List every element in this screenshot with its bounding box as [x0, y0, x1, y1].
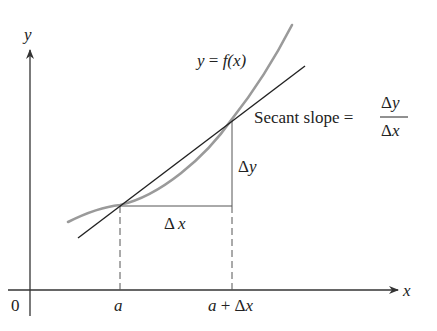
secant-line — [78, 66, 305, 238]
fraction-numerator: Δy — [381, 93, 400, 112]
secant-slope-diagram: y x 0 a a + Δx y = f(x) Δx Δy Secant slo… — [0, 0, 437, 331]
fraction-denominator: Δx — [381, 121, 400, 140]
tick-label-a-plus-dx: a + Δx — [208, 296, 254, 315]
tick-label-a: a — [114, 296, 123, 315]
delta-y-label: Δy — [238, 157, 257, 176]
y-axis-label: y — [22, 25, 32, 44]
origin-label: 0 — [11, 296, 20, 315]
curve-label: y = f(x) — [195, 51, 247, 70]
secant-slope-text: Secant slope = — [254, 108, 353, 127]
x-axis-label: x — [402, 281, 411, 300]
delta-x-label: Δx — [164, 214, 186, 233]
